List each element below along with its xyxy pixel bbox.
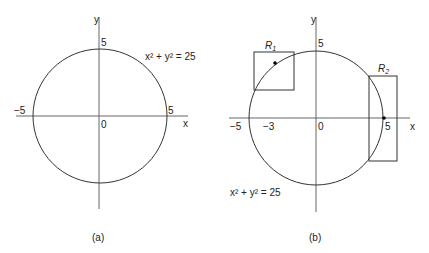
x-axis-label: x	[183, 118, 188, 129]
tick-x-neg5: −5	[14, 105, 26, 116]
panel-b: y 5 −5 −3 5 0 x R1 R2 x² + y² = 25 (b)	[229, 14, 415, 243]
caption-a: (a)	[92, 232, 104, 243]
tick-y-5: 5	[101, 37, 107, 48]
origin-label: 0	[318, 121, 324, 132]
origin-label: 0	[101, 119, 107, 130]
figure: y 5 −5 5 0 x x² + y² = 25 (a) y 5 −5 −3 …	[0, 0, 429, 253]
point-r2	[382, 116, 386, 120]
y-axis-label: y	[94, 14, 99, 25]
tick-y-5: 5	[318, 38, 324, 49]
r1-label: R1	[265, 40, 276, 52]
tick-x-neg3: −3	[263, 121, 275, 132]
tick-x-neg5: −5	[230, 121, 242, 132]
equation-label: x² + y² = 25	[145, 51, 196, 62]
y-axis-label: y	[311, 14, 316, 25]
caption-b: (b)	[309, 232, 321, 243]
region-r1	[254, 52, 294, 90]
x-axis-label: x	[410, 121, 415, 132]
point-r1	[273, 61, 277, 65]
equation-label: x² + y² = 25	[230, 187, 281, 198]
tick-x-5: 5	[168, 105, 174, 116]
r2-label: R2	[378, 63, 389, 75]
tick-x-5: 5	[385, 121, 391, 132]
panel-a: y 5 −5 5 0 x x² + y² = 25 (a)	[14, 14, 196, 243]
